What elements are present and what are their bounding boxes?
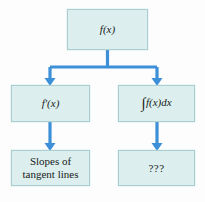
node-slopes-label: Slopes of tangent lines: [21, 155, 81, 180]
node-function-label: f(x): [98, 23, 117, 36]
node-slopes-line2: tangent lines: [23, 168, 79, 180]
node-integral: ∫f(x)dx: [118, 85, 195, 122]
node-derivative-label: f′(x): [40, 97, 62, 110]
node-derivative: f′(x): [11, 85, 90, 122]
node-slopes-tangent-lines: Slopes of tangent lines: [11, 150, 90, 186]
flowchart-diagram: f(x) f′(x) ∫f(x)dx Slopes of tangent lin…: [0, 0, 205, 202]
node-unknown: ???: [118, 150, 195, 186]
node-integral-label: ∫f(x)dx: [139, 95, 173, 112]
node-function: f(x): [67, 9, 148, 50]
node-unknown-label: ???: [146, 162, 166, 175]
node-slopes-line1: Slopes of: [30, 155, 71, 167]
